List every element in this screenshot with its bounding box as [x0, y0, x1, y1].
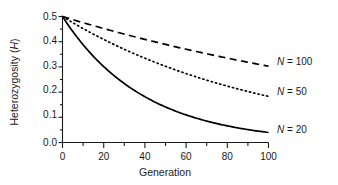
svg-text:Heterozygosity (H): Heterozygosity (H): [8, 39, 20, 126]
y-tick-label: 0.3: [43, 60, 57, 71]
y-tick-label: 0.2: [43, 84, 57, 95]
x-tick-labels: 0 20 40 60 80 100: [60, 151, 278, 162]
y-axis-title-text: Heterozygosity: [8, 55, 20, 125]
y-axis-title: Heterozygosity (H): [8, 39, 20, 126]
x-tick-label: 40: [139, 151, 151, 162]
series-label-value: = 50: [287, 86, 307, 97]
svg-text:N = 50: N = 50: [277, 86, 307, 97]
x-axis-title: Generation: [139, 166, 191, 178]
series-annotation-n50: N = 50: [277, 86, 307, 97]
series-annotation-n100: N = 100: [277, 56, 313, 67]
y-tick-label: 0.4: [43, 35, 57, 46]
series-annotation-n20: N = 20: [277, 124, 307, 135]
x-tick-label: 100: [260, 151, 277, 162]
series-line-n100: [63, 17, 269, 67]
x-tick-label: 60: [181, 151, 193, 162]
y-tick-label: 0.1: [43, 109, 57, 120]
series-label-value: = 100: [287, 56, 313, 67]
y-tick-label: 0.0: [43, 137, 57, 148]
svg-text:N = 20: N = 20: [277, 124, 307, 135]
figure-container: Heterozygosity (H) 0.5 0.4 0.3 0.2 0.1 0…: [0, 0, 338, 185]
y-tick-labels: 0.5 0.4 0.3 0.2 0.1 0.0: [43, 11, 57, 148]
svg-text:N = 100: N = 100: [277, 56, 313, 67]
x-tick-label: 80: [222, 151, 234, 162]
x-tick-label: 0: [60, 151, 66, 162]
heterozygosity-decay-chart: Heterozygosity (H) 0.5 0.4 0.3 0.2 0.1 0…: [0, 0, 338, 185]
x-tick-label: 20: [98, 151, 110, 162]
y-tick-label: 0.5: [43, 11, 57, 22]
series-label-value: = 20: [287, 124, 307, 135]
